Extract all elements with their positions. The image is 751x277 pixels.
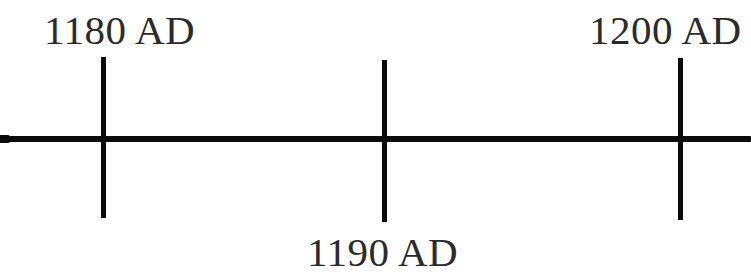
- timeline-label-1190: 1190 AD: [307, 232, 458, 273]
- timeline-label-1200: 1200 AD: [589, 10, 742, 51]
- timeline-axis-line: [0, 136, 751, 142]
- timeline-figure: 1180 AD 1190 AD 1200 AD: [0, 0, 751, 277]
- timeline-tick-1180: [101, 57, 106, 218]
- timeline-label-1180: 1180 AD: [44, 10, 195, 51]
- timeline-tick-1190: [382, 60, 387, 222]
- timeline-tick-1200: [678, 58, 683, 220]
